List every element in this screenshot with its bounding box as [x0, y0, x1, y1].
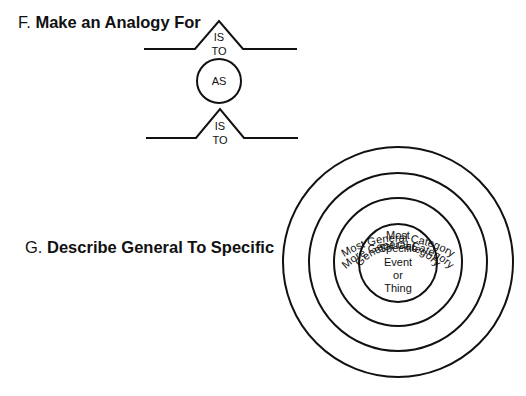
center-line-1: Most: [386, 229, 410, 241]
bottom-to-label: TO: [212, 134, 228, 146]
center-line-5: Thing: [384, 282, 412, 294]
center-line-3: Event: [384, 256, 412, 268]
top-to-label: TO: [211, 45, 227, 57]
bottom-is-label: IS: [215, 120, 225, 132]
center-line-4: or: [393, 269, 403, 281]
analogy-labels: IS TO AS IS TO: [211, 31, 228, 146]
as-label: AS: [212, 75, 227, 87]
top-is-label: IS: [214, 31, 224, 43]
diagrams-canvas: IS TO AS IS TO Most General Category Mor…: [0, 0, 526, 396]
center-line-2: Specific: [379, 242, 418, 254]
